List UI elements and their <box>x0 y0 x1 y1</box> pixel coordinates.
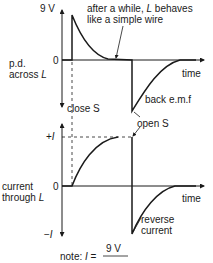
close-s-label: close S <box>67 103 100 114</box>
bottom-y-min-label: −I <box>44 229 53 240</box>
wire-annotation-line2: like a simple wire <box>87 14 163 25</box>
back-emf-pointer <box>134 112 140 117</box>
note-label: note: I = <box>60 251 96 262</box>
wire-annotation-pointer <box>116 26 123 58</box>
top-y-max-label: 9 V <box>40 3 55 14</box>
bottom-y-label-line1: current <box>2 181 33 192</box>
top-x-label: time <box>182 68 201 79</box>
reverse-label-line2: current <box>141 225 172 236</box>
reverse-current-pointer <box>133 218 141 232</box>
top-y-label-line2: across L <box>9 69 47 80</box>
open-s-label: open S <box>137 118 169 129</box>
reverse-label-line1: reverse <box>141 214 174 225</box>
bottom-y-label-line2: through L <box>2 192 44 203</box>
note-numerator: 9 V <box>106 243 121 254</box>
bottom-y-max-label: +I <box>46 131 55 142</box>
wire-annotation-line1: after a while, L behaves <box>87 3 193 14</box>
top-y-label-line1: p.d. <box>9 58 26 69</box>
bottom-x-label: time <box>182 193 201 204</box>
back-emf-label: back e.m.f <box>145 94 191 105</box>
bottom-origin-label: 0 <box>53 181 59 192</box>
top-origin-label: 0 <box>53 55 59 66</box>
inductor-graphs-svg <box>0 0 213 263</box>
